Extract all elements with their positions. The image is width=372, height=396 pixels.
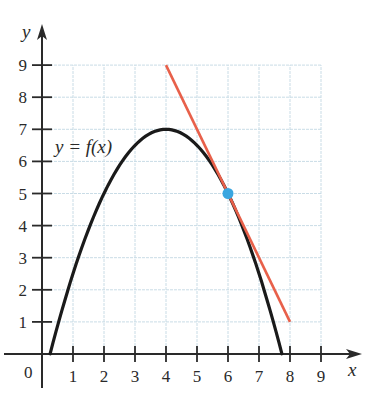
x-tick-label: 4 xyxy=(162,367,171,386)
x-tick-label: 5 xyxy=(193,367,202,386)
y-axis-label: y xyxy=(20,21,31,42)
y-tick-label: 9 xyxy=(19,56,28,75)
x-axis-label: x xyxy=(347,359,357,380)
y-tick-label: 1 xyxy=(19,313,28,332)
y-tick-label: 5 xyxy=(19,185,28,204)
grid xyxy=(42,65,321,354)
y-tick-label: 8 xyxy=(19,88,28,107)
x-tick-label: 1 xyxy=(69,367,78,386)
tick-marks xyxy=(32,65,321,362)
y-tick-label: 3 xyxy=(19,249,28,268)
axes xyxy=(4,24,362,388)
tangent-point xyxy=(223,188,234,199)
x-tick-label: 7 xyxy=(255,367,264,386)
x-tick-label: 3 xyxy=(131,367,140,386)
y-tick-label: 2 xyxy=(19,281,28,300)
x-tick-label: 2 xyxy=(100,367,109,386)
tick-labels: 123456789123456789 xyxy=(19,56,326,386)
x-tick-label: 8 xyxy=(286,367,295,386)
curve-label: y = f(x) xyxy=(53,136,112,158)
y-tick-label: 4 xyxy=(19,217,28,236)
y-tick-label: 6 xyxy=(19,152,28,171)
origin-label: 0 xyxy=(24,363,33,382)
chart-canvas: 123456789123456789 y = f(x) x y 0 xyxy=(0,0,372,396)
x-tick-label: 6 xyxy=(224,367,233,386)
x-tick-label: 9 xyxy=(317,367,326,386)
y-tick-label: 7 xyxy=(19,120,28,139)
